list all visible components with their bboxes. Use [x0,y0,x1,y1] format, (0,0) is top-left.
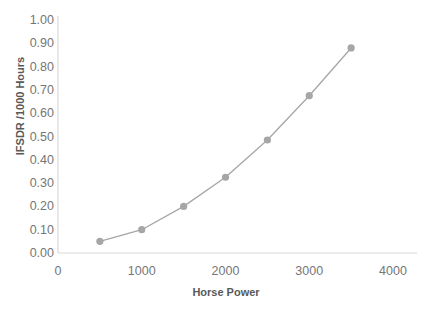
data-point-marker: 2000, 0.325 [222,174,229,181]
chart-container: IFSDR vs Horse Power IFSDR /1000 Hours H… [0,0,430,310]
data-point-marker: 3000, 0.675 [306,92,313,99]
data-point-marker: 500, 0.05 [96,238,103,245]
axis-lines [58,16,417,253]
data-series: 500, 0.051000, 0.11500, 0.22000, 0.32525… [96,44,354,245]
plot-area: 500, 0.051000, 0.11500, 0.22000, 0.32525… [0,0,430,310]
series-line [100,48,351,241]
data-point-marker: 1500, 0.2 [180,203,187,210]
data-point-marker: 1000, 0.1 [138,226,145,233]
data-point-marker: 3500, 0.88 [348,44,355,51]
data-point-marker: 2500, 0.485 [264,136,271,143]
